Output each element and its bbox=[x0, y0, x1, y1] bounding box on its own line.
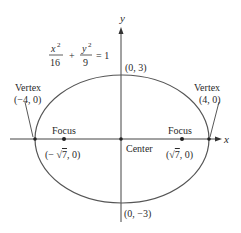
eq-x-exponent: 2 bbox=[57, 41, 61, 49]
ellipse-diagram: x y x 2 16 + y 2 9 = 1 (0, 3) (0, −3) Ve… bbox=[0, 0, 241, 233]
right-focus-label: (√7, 0) bbox=[166, 149, 193, 161]
eq-y-numerator: y bbox=[81, 43, 87, 54]
left-vertex-label: (−4, 0) bbox=[14, 94, 41, 106]
center-label: Center bbox=[126, 143, 153, 154]
right-vertex-label: (4, 0) bbox=[199, 94, 221, 106]
left-vertex-leader bbox=[25, 102, 33, 137]
x-axis-label: x bbox=[223, 133, 229, 145]
x-axis-arrow-icon bbox=[215, 137, 222, 142]
left-vertex-title: Vertex bbox=[15, 82, 41, 93]
left-focus-label: (− √7, 0) bbox=[45, 149, 80, 161]
right-focus-point bbox=[180, 137, 184, 141]
left-focus-title: Focus bbox=[52, 125, 76, 136]
right-vertex-point bbox=[207, 137, 211, 141]
left-focus-point bbox=[62, 137, 66, 141]
top-point-label: (0, 3) bbox=[125, 62, 147, 74]
bottom-point-label: (0, −3) bbox=[124, 208, 151, 220]
eq-rhs: = 1 bbox=[96, 50, 109, 61]
eq-y-exponent: 2 bbox=[88, 41, 92, 49]
y-axis-arrow-icon bbox=[119, 27, 124, 34]
eq-x-numerator: x bbox=[50, 43, 56, 54]
center-point bbox=[119, 137, 123, 141]
eq-x-denominator: 16 bbox=[50, 57, 60, 68]
right-vertex-leader bbox=[210, 102, 219, 137]
left-vertex-point bbox=[33, 137, 37, 141]
y-axis-label: y bbox=[119, 12, 125, 24]
ellipse-equation: x 2 16 + y 2 9 = 1 bbox=[49, 41, 109, 68]
eq-y-denominator: 9 bbox=[83, 57, 88, 68]
eq-plus: + bbox=[69, 50, 75, 61]
right-vertex-title: Vertex bbox=[194, 82, 220, 93]
right-focus-title: Focus bbox=[168, 125, 192, 136]
